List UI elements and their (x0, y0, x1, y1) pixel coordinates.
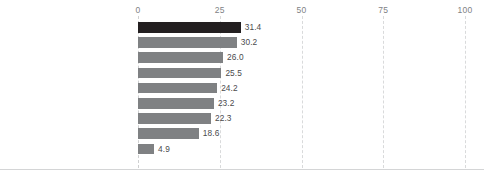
bar (138, 83, 217, 94)
bar-row: 북한 사람들의 사회모습 이해 31.4 (0, 20, 484, 35)
bar-row: 통일과 평화에 대한 다른 나라의 사례 18.6 (0, 126, 484, 141)
bar-track: 25.5 (138, 66, 484, 81)
bar (138, 68, 221, 79)
bar-track: 23.2 (138, 96, 484, 111)
bar (138, 144, 154, 155)
bar-row: 북한의 실상과 주민의 인권상황 이해 25.5 (0, 66, 484, 81)
bar-row: 기타 4.9 (0, 142, 484, 157)
bar-value-label: 30.2 (237, 35, 258, 50)
chart-rows: 북한 사람들의 사회모습 이해 31.4 통일이 가져올 이익에 대한 이해 3… (0, 20, 484, 157)
bar-track: 30.2 (138, 35, 484, 50)
bar (138, 128, 199, 139)
bar-value-label: 4.9 (154, 142, 170, 157)
bar-chart: 0 25 50 75 100 북한 사람들의 사회모습 이해 31.4 통일이 … (0, 0, 484, 174)
bar-row: 남북 분단과 사회적 갈등 해결에 대한 이해 22.3 (0, 111, 484, 126)
bar-value-label: 23.2 (214, 96, 235, 111)
bar-value-label: 25.5 (221, 66, 242, 81)
bar (138, 52, 223, 63)
x-axis-tick-25: 25 (215, 5, 225, 15)
bar-track: 4.9 (138, 142, 484, 157)
bar-track: 24.2 (138, 81, 484, 96)
bar (138, 98, 214, 109)
bar-row: 한반도 안보의 중요성 24.2 (0, 81, 484, 96)
bar-value-label: 26.0 (223, 50, 244, 65)
bar-track: 22.3 (138, 111, 484, 126)
x-axis-tick-75: 75 (378, 5, 388, 15)
bar-value-label: 24.2 (217, 81, 238, 96)
x-axis-tick-100: 100 (458, 5, 473, 15)
bar (138, 22, 241, 33)
bar-value-label: 18.6 (199, 126, 220, 141)
bar-track: 31.4 (138, 20, 484, 35)
bar (138, 37, 237, 48)
bar-row: 남북 간의 화해와 협력 필요성 26.0 (0, 50, 484, 65)
bar-row: 같은 민족으로서 남북의 공통성 23.2 (0, 96, 484, 111)
bar-row: 통일이 가져올 이익에 대한 이해 30.2 (0, 35, 484, 50)
x-axis-tick-0: 0 (136, 5, 141, 15)
chart-bottom-rule (0, 169, 484, 170)
x-axis-tick-50: 50 (297, 5, 307, 15)
bar-track: 18.6 (138, 126, 484, 141)
x-axis-tick-labels: 0 25 50 75 100 (0, 0, 484, 22)
bar-value-label: 31.4 (241, 20, 262, 35)
bar (138, 113, 211, 124)
bar-track: 26.0 (138, 50, 484, 65)
bar-value-label: 22.3 (211, 111, 232, 126)
